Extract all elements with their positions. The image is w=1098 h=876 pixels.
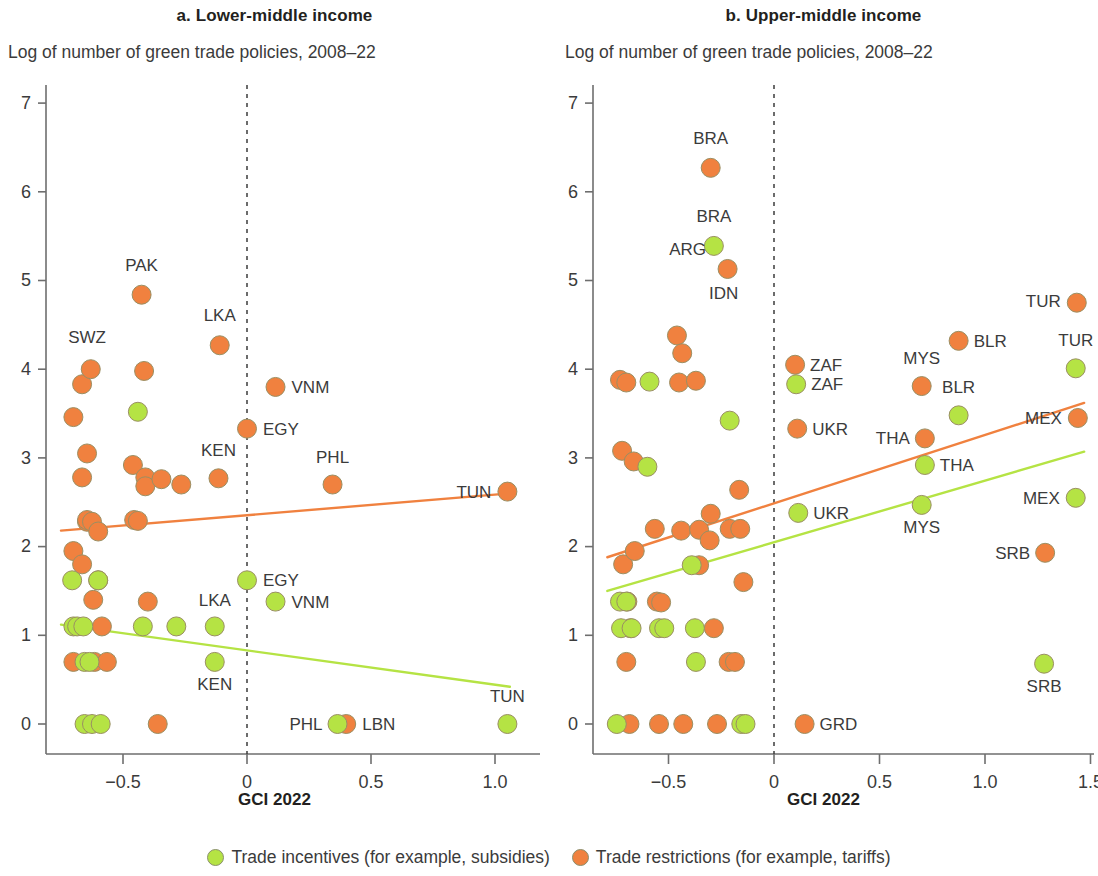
scatter-point[interactable] [734, 573, 753, 592]
scatter-point[interactable] [89, 571, 108, 590]
scatter-point[interactable] [498, 715, 517, 734]
scatter-point[interactable] [686, 652, 705, 671]
scatter-point[interactable] [97, 652, 116, 671]
scatter-point[interactable] [915, 429, 934, 448]
scatter-point[interactable] [672, 521, 691, 540]
scatter-point[interactable] [652, 593, 671, 612]
scatter-point[interactable] [640, 372, 659, 391]
scatter-point[interactable] [704, 236, 723, 255]
scatter-point[interactable] [238, 571, 257, 590]
y-tick-label: 1 [21, 625, 31, 645]
point-label: UKR [813, 504, 849, 523]
scatter-point[interactable] [266, 592, 285, 611]
scatter-point[interactable] [209, 469, 228, 488]
scatter-point[interactable] [1066, 359, 1085, 378]
scatter-point[interactable] [210, 336, 229, 355]
scatter-point[interactable] [205, 617, 224, 636]
point-label: MEX [1023, 489, 1060, 508]
point-label: LBN [362, 715, 395, 734]
scatter-point[interactable] [205, 652, 224, 671]
scatter-point[interactable] [682, 556, 701, 575]
scatter-point[interactable] [617, 652, 636, 671]
scatter-point[interactable] [650, 715, 669, 734]
scatter-point[interactable] [128, 511, 147, 530]
scatter-point[interactable] [718, 259, 737, 278]
scatter-point[interactable] [617, 592, 636, 611]
scatter-point[interactable] [132, 285, 151, 304]
scatter-point[interactable] [949, 331, 968, 350]
scatter-point[interactable] [912, 495, 931, 514]
y-tick-label: 4 [568, 359, 578, 379]
scatter-point[interactable] [64, 408, 83, 427]
scatter-point[interactable] [949, 406, 968, 425]
scatter-point[interactable] [73, 468, 92, 487]
scatter-point[interactable] [638, 457, 657, 476]
x-tick-label: 1.0 [972, 772, 997, 792]
scatter-point[interactable] [91, 715, 110, 734]
scatter-point[interactable] [645, 519, 664, 538]
x-tick-label: 1.0 [482, 772, 507, 792]
scatter-point[interactable] [1036, 543, 1055, 562]
scatter-point[interactable] [78, 444, 97, 463]
scatter-point[interactable] [89, 522, 108, 541]
scatter-point[interactable] [63, 571, 82, 590]
scatter-point[interactable] [80, 652, 99, 671]
scatter-point[interactable] [323, 475, 342, 494]
scatter-point[interactable] [686, 371, 705, 390]
point-label: PAK [125, 256, 158, 275]
scatter-point[interactable] [685, 619, 704, 638]
scatter-point[interactable] [736, 715, 755, 734]
scatter-point[interactable] [670, 373, 689, 392]
scatter-point[interactable] [701, 158, 720, 177]
scatter-point[interactable] [795, 715, 814, 734]
scatter-point[interactable] [617, 373, 636, 392]
scatter-point[interactable] [238, 419, 257, 438]
scatter-point[interactable] [720, 411, 739, 430]
scatter-point[interactable] [81, 360, 100, 379]
scatter-point[interactable] [622, 619, 641, 638]
scatter-point[interactable] [172, 475, 191, 494]
scatter-point[interactable] [167, 617, 186, 636]
scatter-point[interactable] [667, 326, 686, 345]
scatter-point[interactable] [1066, 488, 1085, 507]
scatter-point[interactable] [730, 480, 749, 499]
scatter-point[interactable] [789, 503, 808, 522]
scatter-point[interactable] [135, 361, 154, 380]
scatter-point[interactable] [912, 377, 931, 396]
scatter-point[interactable] [701, 504, 720, 523]
scatter-point[interactable] [788, 419, 807, 438]
scatter-point[interactable] [74, 617, 93, 636]
scatter-point[interactable] [731, 519, 750, 538]
legend-item-restrictions[interactable]: Trade restrictions (for example, tariffs… [572, 847, 891, 868]
point-label: EGY [263, 420, 299, 439]
scatter-point[interactable] [625, 542, 644, 561]
scatter-point[interactable] [84, 590, 103, 609]
scatter-point[interactable] [1067, 293, 1086, 312]
scatter-point[interactable] [328, 715, 347, 734]
trend-line [61, 625, 510, 687]
scatter-point[interactable] [786, 355, 805, 374]
scatter-point[interactable] [1068, 408, 1087, 427]
scatter-point[interactable] [704, 619, 723, 638]
scatter-point[interactable] [133, 617, 152, 636]
scatter-point[interactable] [725, 652, 744, 671]
scatter-point[interactable] [148, 715, 167, 734]
scatter-point[interactable] [498, 482, 517, 501]
scatter-point[interactable] [1035, 654, 1054, 673]
scatter-point[interactable] [674, 715, 693, 734]
scatter-point[interactable] [152, 470, 171, 489]
scatter-point[interactable] [673, 344, 692, 363]
scatter-point[interactable] [708, 715, 727, 734]
legend-item-incentives[interactable]: Trade incentives (for example, subsidies… [207, 847, 549, 868]
scatter-point[interactable] [607, 715, 626, 734]
scatter-point[interactable] [138, 592, 157, 611]
scatter-point[interactable] [655, 619, 674, 638]
scatter-point[interactable] [128, 402, 147, 421]
scatter-point[interactable] [915, 455, 934, 474]
scatter-point[interactable] [92, 617, 111, 636]
x-tick-label: 0 [769, 772, 779, 792]
x-tick-label: −0.5 [651, 772, 687, 792]
scatter-point[interactable] [700, 531, 719, 550]
scatter-point[interactable] [787, 375, 806, 394]
scatter-point[interactable] [266, 377, 285, 396]
